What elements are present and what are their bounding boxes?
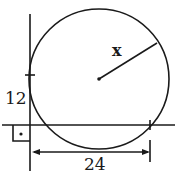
- horizontal-segment-label: 24: [84, 154, 106, 171]
- right-angle-dot: [19, 132, 22, 135]
- center-point: [97, 77, 101, 81]
- radius-line: [99, 43, 157, 79]
- radius-label: x: [112, 41, 122, 60]
- geometry-diagram: x 12 24: [0, 0, 184, 171]
- arrow-right-icon: [142, 149, 150, 155]
- arrow-left-icon: [32, 149, 40, 155]
- vertical-segment-label: 12: [5, 88, 27, 108]
